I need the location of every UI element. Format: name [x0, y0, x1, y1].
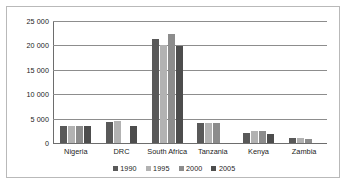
legend-swatch-icon [211, 166, 216, 171]
category-label-drc: DRC [113, 147, 129, 156]
plot-area [53, 21, 327, 143]
bar [106, 122, 113, 143]
legend-swatch-icon [113, 166, 118, 171]
legend-swatch-icon [179, 166, 184, 171]
bar [130, 126, 137, 143]
x-axis-category-labels: NigeriaDRCSouth AfricaTanzaniaKenyaZambi… [53, 147, 327, 161]
bar [213, 123, 220, 143]
y-tick-label: 20 000 [9, 41, 49, 50]
category-label-zambia: Zambia [292, 147, 317, 156]
legend-item-2005[interactable]: 2005 [211, 164, 235, 173]
gridline-0 [53, 143, 327, 144]
bar-group [53, 21, 99, 143]
bar [205, 123, 212, 143]
legend-label: 2000 [186, 164, 202, 173]
bar-group [281, 21, 327, 143]
y-tick-label: 10 000 [9, 90, 49, 99]
bar [289, 138, 296, 143]
bar [68, 126, 75, 143]
category-label-nigeria: Nigeria [64, 147, 87, 156]
chart-legend: 1990199520002005 [7, 164, 341, 173]
bar [251, 131, 258, 143]
legend-item-2000[interactable]: 2000 [179, 164, 203, 173]
y-tick-label: 0 [9, 139, 49, 148]
bar [84, 126, 91, 143]
legend-item-1990[interactable]: 1990 [113, 164, 137, 173]
legend-label: 2005 [219, 164, 235, 173]
bar [297, 138, 304, 143]
category-label-kenya: Kenya [248, 147, 269, 156]
bar [114, 121, 121, 143]
bar-group [190, 21, 236, 143]
bar [305, 139, 312, 143]
bar [267, 134, 274, 143]
bar [197, 123, 204, 143]
y-tick-label: 5 000 [9, 114, 49, 123]
bar-group [99, 21, 145, 143]
bar-group [144, 21, 190, 143]
legend-swatch-icon [146, 166, 151, 171]
y-tick-label: 25 000 [9, 17, 49, 26]
category-label-south-africa: South Africa [147, 147, 187, 156]
bar [168, 34, 175, 143]
legend-label: 1990 [120, 164, 136, 173]
chart-frame: 05 00010 00015 00020 00025 000 NigeriaDR… [6, 6, 340, 178]
y-tick-label: 15 000 [9, 65, 49, 74]
legend-item-1995[interactable]: 1995 [146, 164, 170, 173]
y-axis-tick-labels: 05 00010 00015 00020 00025 000 [7, 21, 49, 143]
legend-label: 1995 [153, 164, 169, 173]
bar [259, 131, 266, 143]
category-label-tanzania: Tanzania [198, 147, 228, 156]
bar [76, 126, 83, 143]
bar [176, 46, 183, 143]
bar [243, 133, 250, 143]
bar [160, 45, 167, 143]
bar-group [236, 21, 282, 143]
bar [60, 126, 67, 143]
bar [152, 39, 159, 143]
